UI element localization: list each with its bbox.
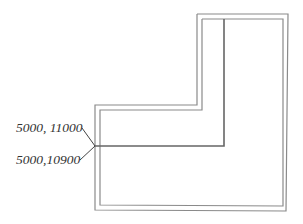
inner-wall <box>100 19 283 206</box>
coordinate-label-lower: 5000,10900 <box>16 153 80 167</box>
outer-wall <box>95 14 288 211</box>
leader-lower <box>80 146 95 160</box>
plan-drawing <box>0 0 303 224</box>
center-line <box>95 19 224 146</box>
leader-upper <box>82 128 95 146</box>
coordinate-label-upper: 5000, 11000 <box>16 121 83 135</box>
